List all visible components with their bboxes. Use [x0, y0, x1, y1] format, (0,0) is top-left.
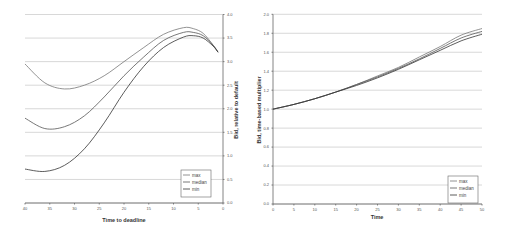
x-tick-label: 35: [417, 207, 422, 212]
y-tick-label: 0.4: [263, 163, 269, 168]
series-lines: [25, 27, 218, 171]
series-line-max: [273, 29, 482, 110]
x-tick-label: 30: [396, 207, 401, 212]
legend-label-median: median: [192, 180, 207, 185]
legend-label-median: median: [459, 186, 474, 191]
x-axis-label: Time to deadline: [102, 217, 145, 223]
x-tick-label: 5: [293, 207, 296, 212]
x-tick-labels: 4035302520151050: [23, 203, 225, 211]
y-tick-label: 1.6: [263, 50, 269, 55]
y-tick-label: 0.8: [263, 126, 269, 131]
y-tick-label: 4.0: [227, 12, 233, 17]
legend-label-min: min: [459, 193, 467, 198]
y-tick-label: 3.0: [227, 59, 233, 64]
x-tick-label: 35: [48, 206, 53, 211]
x-tick-label: 50: [480, 207, 485, 212]
x-tick-label: 20: [122, 206, 127, 211]
y-axis-label: Bid, time-based multiplier: [256, 76, 262, 144]
x-tick-label: 30: [72, 206, 77, 211]
y-tick-label: 1.4: [263, 69, 269, 74]
y-tick-label: 0.6: [263, 144, 269, 149]
x-tick-label: 20: [354, 207, 359, 212]
legend-label-max: max: [459, 179, 468, 184]
x-tick-label: 15: [147, 206, 152, 211]
y-tick-labels: 0.00.20.40.60.81.01.21.41.61.82.0: [263, 12, 273, 207]
x-tick-label: 25: [97, 206, 102, 211]
y-tick-labels: 0.00.51.01.52.02.53.03.54.0: [223, 12, 233, 206]
x-tick-label: 25: [375, 207, 380, 212]
x-tick-label: 0: [272, 207, 275, 212]
legend-label-min: min: [192, 187, 200, 192]
y-tick-label: 0.0: [263, 201, 269, 206]
x-axis-label: Time: [371, 214, 384, 220]
x-tick-label: 45: [459, 207, 464, 212]
series-line-median: [25, 32, 218, 129]
legend-label-max: max: [192, 173, 201, 178]
x-tick-label: 15: [333, 207, 338, 212]
legend: maxmedianmin: [181, 170, 211, 197]
charts-canvas: 4035302520151050 0.00.51.01.52.02.53.03.…: [0, 0, 509, 229]
series-line-min: [25, 36, 218, 172]
x-tick-label: 40: [438, 207, 443, 212]
y-tick-label: 2.0: [263, 12, 269, 17]
x-tick-label: 0: [222, 206, 225, 211]
y-tick-label: 1.2: [263, 88, 269, 93]
y-tick-label: 0.5: [227, 177, 233, 182]
y-tick-label: 1.0: [263, 107, 269, 112]
y-tick-label: 1.8: [263, 31, 269, 36]
x-tick-label: 10: [171, 206, 176, 211]
series-lines: [273, 29, 482, 110]
series-line-min: [273, 34, 482, 109]
series-line-median: [273, 31, 482, 109]
chart-bid-time-based-multiplier: 05101520253035404550 0.00.20.40.60.81.01…: [256, 12, 485, 220]
y-tick-label: 0.2: [263, 182, 269, 187]
y-tick-label: 0.0: [227, 200, 233, 205]
legend: maxmedianmin: [448, 176, 478, 203]
x-tick-label: 40: [23, 206, 28, 211]
y-axis-label: Bid, relative to default: [233, 81, 239, 139]
x-tick-label: 10: [313, 207, 318, 212]
series-line-max: [25, 27, 218, 89]
x-tick-label: 5: [197, 206, 200, 211]
y-tick-label: 1.0: [227, 153, 233, 158]
chart-bid-relative-to-default: 4035302520151050 0.00.51.01.52.02.53.03.…: [23, 12, 239, 223]
x-tick-labels: 05101520253035404550: [272, 204, 485, 212]
y-tick-label: 3.5: [227, 35, 233, 40]
